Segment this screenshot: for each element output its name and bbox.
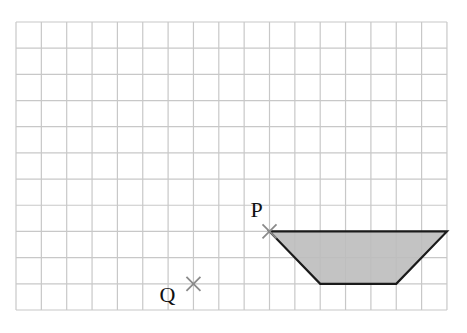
trapezium-shape	[270, 231, 447, 283]
point-label: Q	[159, 282, 175, 307]
points-layer: PQ	[159, 197, 276, 306]
grid-diagram: PQ	[0, 0, 467, 333]
point-q: Q	[159, 277, 200, 307]
point-label: P	[251, 197, 263, 222]
